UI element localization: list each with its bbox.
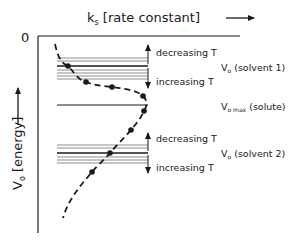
solvent-2-label: Vo (solvent 2): [221, 148, 285, 160]
curve-points: [65, 63, 147, 175]
x-axis-title: ks [rate constant]: [87, 10, 200, 27]
lower-increasing-label: increasing T: [156, 162, 214, 173]
y-axis-title: Vo [energy]: [10, 117, 27, 190]
energy-rate-diagram: ks [rate constant] 0 Vo [energy]: [0, 0, 295, 242]
svg-text:Vo [energy]: Vo [energy]: [10, 117, 27, 190]
upper-increasing-label: increasing T: [156, 76, 214, 87]
lower-decreasing-label: decreasing T: [156, 133, 217, 144]
solvent-1-label: Vo (solvent 1): [221, 62, 285, 74]
solute-label: Vo max (solute): [221, 101, 286, 113]
origin-label: 0: [21, 30, 29, 45]
upper-decreasing-label: decreasing T: [156, 47, 217, 58]
